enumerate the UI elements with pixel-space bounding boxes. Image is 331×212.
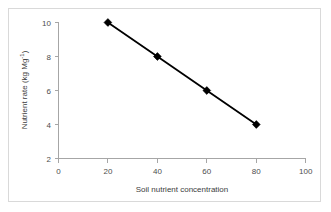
x-tick-label-60: 60 [202, 167, 211, 176]
y-axis-title: Nutrient rate (kg Mg-1) [19, 50, 29, 129]
y-tick-label-8: 8 [47, 53, 52, 62]
x-tick-label-40: 40 [153, 167, 162, 176]
y-axis-title-tail: ) [20, 50, 29, 53]
x-tick-label-80: 80 [252, 167, 261, 176]
chart-figure: 10 8 6 4 2 0 20 40 60 80 100 Soil nutrie… [0, 0, 331, 212]
y-tick-label-4: 4 [47, 121, 52, 130]
y-tick-label-10: 10 [42, 19, 51, 28]
y-axis-title-group: Nutrient rate (kg Mg-1) [19, 50, 29, 129]
y-axis-title-base: Nutrient rate (kg Mg [20, 59, 29, 130]
x-tick-label-100: 100 [299, 167, 313, 176]
y-tick-label-2: 2 [47, 155, 52, 164]
x-tick-label-0: 0 [56, 167, 61, 176]
y-tick-label-6: 6 [47, 87, 52, 96]
series-line-nutrient-rate [108, 23, 256, 125]
x-tick-label-20: 20 [103, 167, 112, 176]
line-chart-plot: 10 8 6 4 2 0 20 40 60 80 100 Soil nutrie… [0, 0, 331, 212]
x-axis-title: Soil nutrient concentration [136, 185, 229, 194]
